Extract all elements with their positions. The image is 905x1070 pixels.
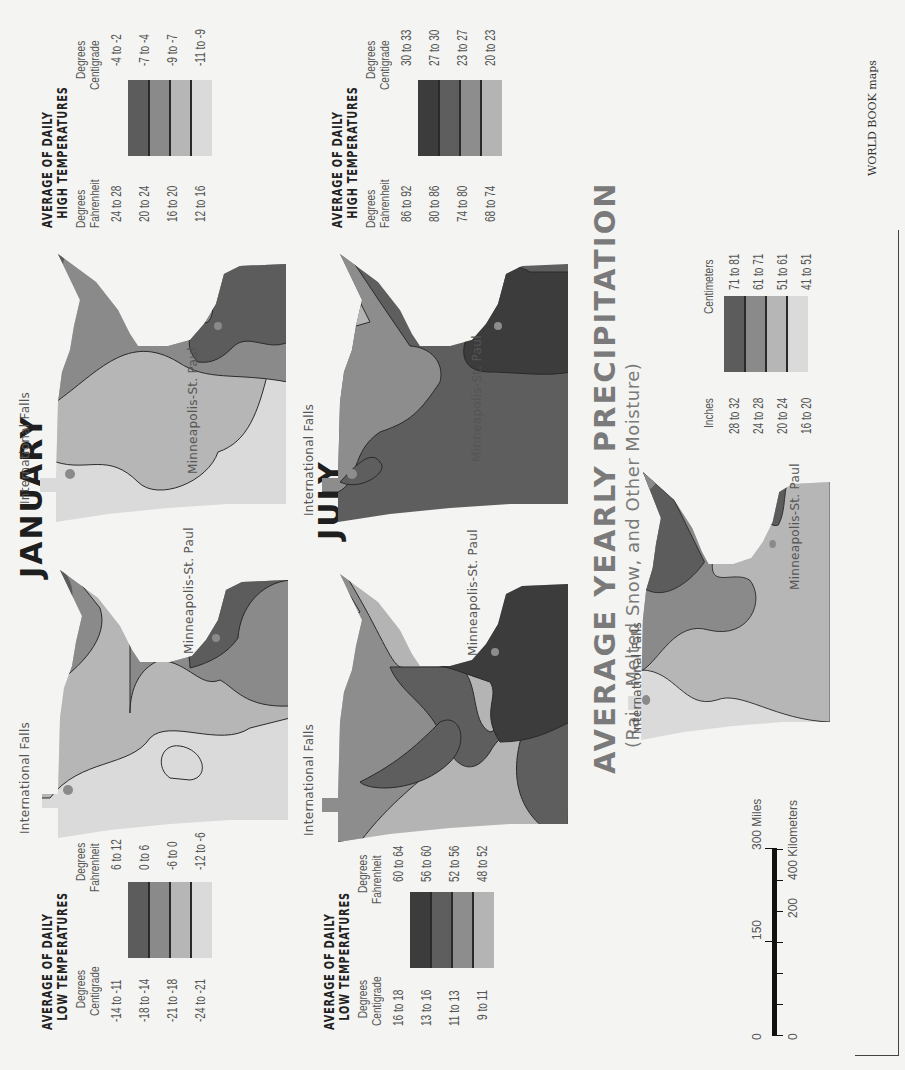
legend-swatch-1 <box>410 892 431 968</box>
legend-swatch-3 <box>170 80 191 156</box>
precipitation-map <box>610 460 840 740</box>
legend-left-header: Degrees Centigrade <box>74 966 102 1016</box>
legend-title: AVERAGE OF DAILY HIGH TEMPERATURES <box>330 64 360 228</box>
legend-row-right: 51 to 61 <box>774 254 790 290</box>
january-high-legend: AVERAGE OF DAILY HIGH TEMPERATURES Degre… <box>40 18 70 228</box>
legend-row-right: -12 to -6 <box>192 832 208 870</box>
city-label-minneapolis-st-paul: Minneapolis-St. Paul <box>466 529 480 656</box>
legend-row-left: -21 to -18 <box>164 979 180 1022</box>
legend-row-left: 13 to 16 <box>418 990 434 1026</box>
legend-swatch-2 <box>431 892 452 968</box>
legend-row-right: -9 to -7 <box>164 34 180 66</box>
legend-row-right: 6 to 12 <box>108 839 124 870</box>
legend-row-left: 20 to 24 <box>774 398 790 434</box>
legend-swatch-4 <box>787 296 808 372</box>
legend-row-left: 86 to 92 <box>398 186 414 222</box>
legend-row-right: 20 to 23 <box>482 30 498 66</box>
legend-right-header: Centimeters <box>702 259 716 314</box>
frame-line-bottom <box>898 230 899 1056</box>
legend-row-right: 23 to 27 <box>454 30 470 66</box>
legend-row-left: 11 to 13 <box>446 990 462 1026</box>
scale-bar: 0 150 300 Miles 0 200 400 Kilometers <box>750 780 820 1040</box>
legend-swatch-4 <box>473 892 494 968</box>
legend-left-header: Degrees Fahrenheit <box>364 180 392 228</box>
legend-row-left: 68 to 74 <box>482 186 498 222</box>
legend-swatch-2 <box>439 80 460 156</box>
legend-row-right: 71 to 81 <box>726 254 742 290</box>
city-label-international-falls: International Falls <box>302 724 316 836</box>
legend-row-left: 24 to 28 <box>108 186 124 222</box>
legend-title: AVERAGE OF DAILY LOW TEMPERATURES <box>40 866 70 1030</box>
city-label-minneapolis-st-paul: Minneapolis-St. Paul <box>470 335 484 462</box>
world-book-credit: WORLD BOOK maps <box>866 60 879 176</box>
legend-row-left: -24 to -21 <box>192 979 208 1022</box>
legend-right-header: Degrees Fahrenheit <box>74 843 102 892</box>
legend-row-left: 74 to 80 <box>454 186 470 222</box>
legend-row-left: 16 to 20 <box>164 186 180 222</box>
scale-miles-150: 150 <box>750 920 764 940</box>
scale-miles-0: 0 <box>750 1033 764 1040</box>
legend-swatch-1 <box>128 80 149 156</box>
legend-row-right: 61 to 71 <box>750 254 766 290</box>
legend-row-left: -14 to -11 <box>108 980 124 1022</box>
legend-swatch-2 <box>149 80 170 156</box>
legend-row-right: 48 to 52 <box>474 846 490 882</box>
city-label-international-falls: International Falls <box>630 622 644 734</box>
july-low-temperature-map <box>300 562 580 842</box>
legend-title: AVERAGE OF DAILY LOW TEMPERATURES <box>322 866 352 1030</box>
legend-row-left: 12 to 16 <box>192 186 208 222</box>
city-label-international-falls: International Falls <box>18 722 32 834</box>
legend-swatch-2 <box>745 296 766 372</box>
legend-row-right: -7 to -4 <box>136 34 152 66</box>
july-high-temperature-map <box>300 242 580 522</box>
legend-row-right: -11 to -9 <box>192 29 208 66</box>
legend-row-right: -6 to 0 <box>164 841 180 870</box>
legend-row-right: 0 to 6 <box>136 845 152 870</box>
legend-swatch-3 <box>766 296 787 372</box>
legend-row-left: 16 to 20 <box>798 398 814 434</box>
legend-row-right: 52 to 56 <box>446 846 462 882</box>
legend-swatch-1 <box>724 296 745 372</box>
legend-swatch-3 <box>452 892 473 968</box>
legend-left-header: Degrees Centigrade <box>356 976 384 1026</box>
legend-swatch-1 <box>418 80 439 156</box>
frame-line-left <box>855 1055 899 1056</box>
legend-swatch-4 <box>191 80 212 156</box>
legend-row-right: -4 to -2 <box>108 34 124 66</box>
legend-left-header: Inches <box>702 398 716 428</box>
legend-row-left: 16 to 18 <box>390 990 406 1026</box>
legend-swatch-2 <box>149 882 170 958</box>
city-label-international-falls: International Falls <box>18 392 32 504</box>
scale-km-400: 400 Kilometers <box>786 800 800 880</box>
scale-km-200: 200 <box>786 898 800 918</box>
legend-row-left: -18 to -14 <box>136 979 152 1022</box>
legend-row-left: 20 to 24 <box>136 186 152 222</box>
legend-row-right: 41 to 51 <box>798 254 814 290</box>
legend-row-right: 27 to 30 <box>426 30 442 66</box>
legend-row-left: 80 to 86 <box>426 186 442 222</box>
legend-swatch-3 <box>460 80 481 156</box>
legend-swatch-3 <box>170 882 191 958</box>
legend-right-header: Degrees Centigrade <box>74 40 102 90</box>
january-low-temperature-map <box>20 558 300 838</box>
legend-title: AVERAGE OF DAILY HIGH TEMPERATURES <box>40 64 70 228</box>
january-high-temperature-map <box>18 242 298 522</box>
legend-row-left: 9 to 11 <box>474 990 490 1020</box>
july-high-legend: AVERAGE OF DAILY HIGH TEMPERATURES Degre… <box>330 18 360 228</box>
scale-km-0: 0 <box>786 1033 800 1040</box>
legend-row-right: 60 to 64 <box>390 846 406 882</box>
january-low-legend: AVERAGE OF DAILY LOW TEMPERATURES Degree… <box>40 820 70 1030</box>
legend-row-right: 56 to 60 <box>418 846 434 882</box>
july-low-legend: AVERAGE OF DAILY LOW TEMPERATURES Degree… <box>322 820 352 1030</box>
scale-miles-300: 300 Miles <box>750 799 764 850</box>
legend-right-header: Degrees Fahrenheit <box>356 855 384 904</box>
rotated-map-page: JANUARY AVERAGE OF DAILY LOW TEMPERATURE… <box>0 0 905 1070</box>
city-label-minneapolis-st-paul: Minneapolis-St. Paul <box>788 463 802 590</box>
city-label-international-falls: International Falls <box>302 404 316 516</box>
legend-row-left: 24 to 28 <box>750 398 766 434</box>
city-label-minneapolis-st-paul: Minneapolis-St. Paul <box>186 347 200 474</box>
city-label-minneapolis-st-paul: Minneapolis-St. Paul <box>182 527 196 654</box>
legend-swatch-4 <box>191 882 212 958</box>
legend-row-left: 28 to 32 <box>726 398 742 434</box>
legend-left-header: Degrees Fahrenheit <box>74 180 102 228</box>
